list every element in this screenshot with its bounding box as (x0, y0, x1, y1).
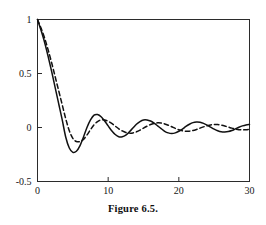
x-axis-ticks (108, 177, 179, 182)
y-axis-tick-labels: -0.500.51 (16, 14, 32, 187)
x-axis-tick-labels: 0102030 (35, 185, 255, 196)
plot-canvas: 0102030 -0.500.51 (0, 0, 266, 225)
y-tick-label: -0.5 (16, 176, 32, 187)
x-tick-label: 30 (245, 185, 255, 196)
x-tick-label: 0 (35, 185, 40, 196)
x-tick-label: 10 (103, 185, 113, 196)
axes-frame (38, 20, 250, 182)
dashed-curve (38, 20, 250, 142)
solid-curve (38, 20, 250, 153)
y-tick-label: 0.5 (19, 68, 32, 79)
data-series-layer (38, 20, 250, 153)
figure-container: 0102030 -0.500.51 Figure 6.5. (0, 0, 266, 225)
x-tick-label: 20 (174, 185, 184, 196)
figure-caption: Figure 6.5. (0, 203, 266, 214)
y-tick-label: 1 (27, 14, 32, 25)
y-tick-label: 0 (27, 122, 32, 133)
y-axis-ticks (38, 74, 43, 128)
